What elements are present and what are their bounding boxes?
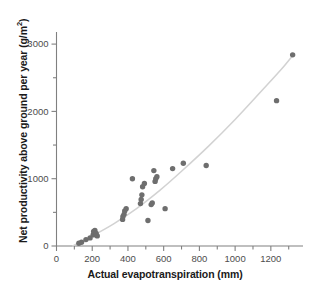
y-axis-tick-label: 3000: [27, 38, 48, 49]
scatter-plot-figure: Net productivity above ground per year (…: [0, 0, 315, 295]
data-point: [139, 192, 144, 197]
plot-area: 0100020003000020040060080010001200: [0, 0, 315, 295]
data-point: [170, 166, 175, 171]
x-axis-tick-label: 600: [156, 253, 172, 264]
data-point: [290, 52, 295, 57]
data-point: [95, 233, 100, 238]
x-axis-tick-label: 1000: [225, 253, 246, 264]
data-point: [181, 161, 186, 166]
tick-labels-layer: 0100020003000020040060080010001200: [27, 38, 281, 264]
trend-curve: [73, 55, 294, 246]
y-axis-tick-label: 0: [43, 240, 48, 251]
data-point: [162, 206, 167, 211]
x-axis-tick-label: 800: [191, 253, 207, 264]
axis-spines: [57, 32, 304, 246]
y-axis-tick-label: 1000: [27, 173, 48, 184]
data-point: [150, 200, 155, 205]
data-point: [145, 218, 150, 223]
x-axis-tick-label: 400: [120, 253, 136, 264]
x-axis-title: Actual evapotranspiration (mm): [40, 268, 290, 280]
y-axis-tick-label: 2000: [27, 106, 48, 117]
x-axis-tick-label: 0: [54, 253, 59, 264]
axes-layer: [52, 32, 304, 251]
data-point: [130, 176, 135, 181]
x-axis-tick-label: 1200: [260, 253, 281, 264]
trend-curve-layer: [73, 55, 294, 246]
data-point: [151, 168, 156, 173]
data-point: [203, 163, 208, 168]
data-point: [138, 197, 143, 202]
data-point: [154, 174, 159, 179]
data-points-layer: [76, 52, 295, 246]
data-point: [123, 206, 128, 211]
data-point: [142, 181, 147, 186]
x-axis-tick-label: 200: [84, 253, 100, 264]
data-point: [274, 98, 279, 103]
